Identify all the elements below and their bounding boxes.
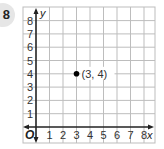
data-point xyxy=(74,71,80,77)
x-tick-label: 6 xyxy=(114,129,120,141)
point-label: (3, 4) xyxy=(82,68,108,80)
coordinate-plane: 1234567812345678Oxy(3, 4) xyxy=(0,0,164,149)
y-tick-label: 8 xyxy=(27,15,33,27)
x-tick-label: 3 xyxy=(74,129,80,141)
x-axis-label: x xyxy=(146,129,153,141)
x-tick-label: 1 xyxy=(47,129,53,141)
x-tick-label: 4 xyxy=(87,129,93,141)
x-tick-label: 5 xyxy=(101,129,107,141)
y-axis-arrow-icon xyxy=(34,8,39,14)
y-tick-label: 1 xyxy=(27,108,33,120)
y-tick-label: 7 xyxy=(27,28,33,40)
y-axis-label: y xyxy=(39,7,47,19)
y-tick-label: 5 xyxy=(27,55,33,67)
x-tick-label: 2 xyxy=(60,129,66,141)
x-tick-label: 7 xyxy=(128,129,134,141)
y-tick-label: 2 xyxy=(27,94,33,106)
origin-label: O xyxy=(25,128,35,142)
y-tick-label: 6 xyxy=(27,41,33,53)
y-tick-label: 3 xyxy=(27,81,33,93)
y-tick-label: 4 xyxy=(27,68,33,80)
